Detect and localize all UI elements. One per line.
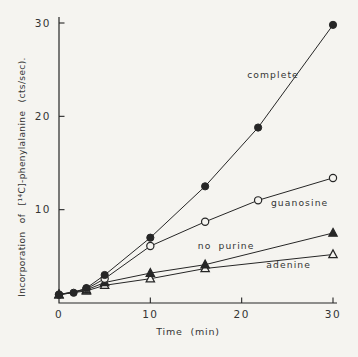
x-tick-label: 20 — [233, 308, 249, 320]
y-tick-label: 10 — [35, 203, 51, 215]
filled-circle-marker — [329, 21, 336, 28]
x-axis-label: Time (min) — [155, 326, 220, 337]
filled-circle-marker — [101, 271, 108, 278]
filled-circle-marker — [83, 284, 90, 291]
curve-label-no-purine: no purine — [198, 240, 255, 251]
filled-circle-marker — [147, 234, 154, 241]
filled-circle-marker — [70, 289, 77, 296]
line-chart: 1020300102030Time (min)Incorporation of … — [0, 0, 358, 357]
open-circle-marker — [147, 242, 154, 249]
open-circle-marker — [329, 174, 336, 181]
filled-circle-marker — [55, 291, 62, 298]
filled-circle-marker — [255, 124, 262, 131]
figure-container: 1020300102030Time (min)Incorporation of … — [0, 0, 358, 357]
curve-label-guanosine: guanosine — [271, 197, 328, 208]
y-tick-label: 30 — [35, 17, 51, 29]
open-circle-marker — [202, 218, 209, 225]
y-axis-label: Incorporation of [¹⁴C]-phenylalanine (ct… — [17, 57, 27, 297]
curve-label-adenine: adenine — [266, 259, 311, 270]
filled-circle-marker — [202, 183, 209, 190]
y-tick-label: 20 — [35, 110, 51, 122]
x-tick-label: 10 — [142, 308, 158, 320]
x-tick-label: 0 — [55, 308, 63, 320]
open-circle-marker — [255, 197, 262, 204]
curve-label-complete: complete — [247, 69, 299, 80]
x-tick-label: 30 — [325, 308, 341, 320]
